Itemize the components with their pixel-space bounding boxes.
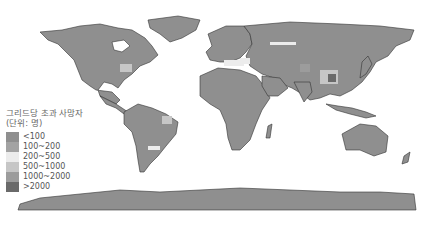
legend-label: >2000 [23,182,50,192]
legend-item: 500~1000 [6,162,83,172]
legend-label: 200~500 [23,152,60,162]
legend-label: 100~200 [23,142,60,152]
legend-swatch [6,172,19,182]
north-america [40,24,158,104]
legend-label: 1000~2000 [23,172,70,182]
legend-item: <100 [6,132,83,142]
legend-label: 500~1000 [23,162,65,172]
legend-item: 1000~2000 [6,172,83,182]
australia [342,124,388,156]
map-legend: 그리드당 초과 사망자 (단위: 명) <100 100~200 200~500… [6,108,83,192]
legend-swatch [6,142,19,152]
legend-item: >2000 [6,182,83,192]
madagascar [266,124,272,138]
africa [200,68,270,150]
legend-item: 200~500 [6,152,83,162]
legend-swatch [6,162,19,172]
south-america [124,104,178,172]
europe [206,26,252,62]
legend-label: <100 [23,132,45,142]
greenland [148,16,200,42]
legend-swatch [6,182,19,192]
new-zealand [402,152,410,164]
legend-unit: (단위: 명) [6,118,83,128]
legend-item: 100~200 [6,142,83,152]
legend-title: 그리드당 초과 사망자 [6,108,83,118]
legend-swatch [6,152,19,162]
legend-swatch [6,132,19,142]
indonesia [326,104,376,118]
